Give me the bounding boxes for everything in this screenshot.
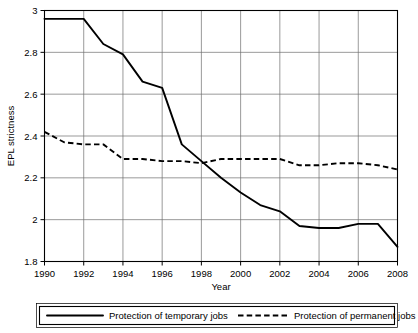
x-tick-label: 2006 — [348, 268, 369, 279]
x-tick-label: 1996 — [152, 268, 173, 279]
chart-canvas: 1.822.22.42.62.83 1990199219941996199820… — [0, 0, 418, 333]
x-axis-title: Year — [211, 281, 230, 292]
x-tick-label: 1998 — [191, 268, 212, 279]
x-tick-label: 2004 — [308, 268, 329, 279]
y-tick-label: 2.2 — [24, 172, 37, 183]
series-line-permanent-jobs — [45, 132, 398, 170]
epl-strictness-chart: 1.822.22.42.62.83 1990199219941996199820… — [0, 0, 418, 333]
x-tick-label: 2008 — [387, 268, 408, 279]
series-line-temporary-jobs — [45, 19, 398, 247]
x-tick-label: 1994 — [112, 268, 133, 279]
y-tick-label: 3 — [32, 5, 37, 16]
x-tick-label: 2002 — [269, 268, 290, 279]
x-tick-marks — [45, 262, 398, 266]
y-tick-label: 2.6 — [24, 89, 37, 100]
x-tick-label: 1992 — [73, 268, 94, 279]
y-tick-label: 2.4 — [24, 131, 37, 142]
y-tick-label: 1.8 — [24, 256, 37, 267]
y-axis-title: EPL strictness — [5, 106, 16, 167]
y-tick-labels: 1.822.22.42.62.83 — [24, 5, 37, 267]
y-tick-label: 2.8 — [24, 47, 37, 58]
x-tick-labels: 1990199219941996199820002002200420062008 — [34, 268, 408, 279]
y-gridlines — [45, 52, 398, 219]
legend-label-permanent-jobs: Protection of permanent jobs — [294, 310, 416, 321]
legend: Protection of temporary jobs Protection … — [37, 304, 416, 328]
legend-label-temporary-jobs: Protection of temporary jobs — [109, 310, 228, 321]
y-tick-label: 2 — [32, 214, 37, 225]
x-tick-label: 1990 — [34, 268, 55, 279]
y-tick-marks — [41, 11, 45, 262]
x-tick-label: 2000 — [230, 268, 251, 279]
